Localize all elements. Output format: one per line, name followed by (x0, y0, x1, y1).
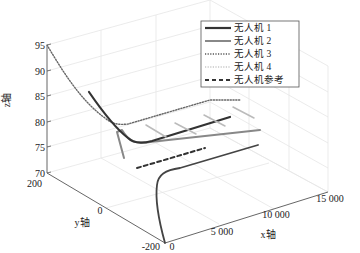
z-tick-label: 95 (35, 40, 45, 51)
x-tick-label: 15 000 (316, 193, 344, 204)
legend-label: 无人机 2 (234, 35, 271, 46)
3d-trajectory-chart: 95 90 85 80 75 70 z轴 200 0 -200 y轴 0 5 0… (0, 0, 360, 253)
z-tick-label: 80 (35, 117, 45, 128)
x-tick-label: 5 000 (211, 226, 234, 237)
y-tick-label: 0 (98, 205, 103, 216)
y-axis-label: y轴 (75, 216, 90, 228)
z-tick-label: 85 (35, 91, 45, 102)
x-tick-label: 0 (170, 241, 175, 252)
x-axis-line (165, 192, 328, 243)
legend: 无人机 1 无人机 2 无人机 3 无人机 4 无人机参考 (201, 21, 299, 87)
z-axis-label: z轴 (0, 93, 12, 107)
x-tick-label: 10 000 (262, 209, 290, 220)
z-tick-label: 75 (35, 142, 45, 153)
series-uav4-lower (157, 145, 258, 243)
x-axis-label: x轴 (261, 228, 276, 240)
z-tick-label: 90 (35, 66, 45, 77)
y-tick-label: -200 (142, 241, 160, 252)
legend-label: 无人机 3 (234, 48, 271, 59)
y-tick-label: 200 (27, 178, 42, 189)
legend-label: 无人机参考 (234, 74, 284, 85)
legend-label: 无人机 4 (234, 61, 271, 72)
z-ticks (47, 44, 51, 173)
legend-label: 无人机 1 (234, 22, 271, 33)
